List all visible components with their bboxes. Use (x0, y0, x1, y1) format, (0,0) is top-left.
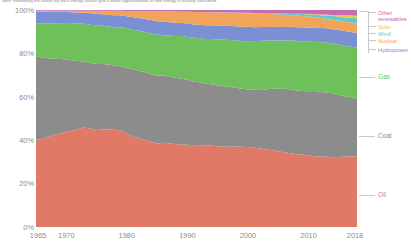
legend-leader (368, 12, 376, 13)
legend-leader (359, 77, 375, 78)
legend-label-wind[interactable]: Wind (378, 31, 411, 37)
x-axis: 1965197019801990200020102018 (0, 231, 411, 242)
y-tick-label: 20% (2, 179, 34, 188)
legend-label-nuclear[interactable]: Nuclear (378, 38, 411, 44)
legend-label-solar[interactable]: Solar (378, 24, 411, 30)
x-tick-label: 1970 (58, 231, 74, 240)
legend-label-other-renewables[interactable]: Other renewables (378, 10, 411, 22)
legend-label-coal[interactable]: Coal (378, 133, 411, 139)
legend-leader (368, 49, 376, 50)
stacked-area-svg (36, 10, 357, 227)
chart-legend: Other renewablesSolarWindNuclearHydropow… (357, 0, 411, 242)
y-tick-label: 80% (2, 49, 34, 58)
plot-area (36, 10, 357, 227)
x-tick-label: 1965 (30, 231, 46, 240)
legend-label-hydropower[interactable]: Hydropower (378, 47, 411, 53)
y-axis: 0%20%40%60%80%100% (0, 0, 34, 242)
x-tick-label: 1980 (119, 231, 135, 240)
legend-leader (359, 11, 368, 12)
legend-leader (359, 195, 375, 196)
legend-bracket-spine (368, 11, 369, 53)
legend-leader (359, 136, 375, 137)
legend-label-gas[interactable]: Gas (378, 74, 411, 80)
legend-leader (368, 40, 376, 41)
legend-label-oil[interactable]: Oil (378, 192, 411, 198)
legend-leader (368, 26, 376, 27)
y-tick-label: 40% (2, 136, 34, 145)
chart-subtitle: Note: Examining the shares by each energ… (2, 0, 342, 3)
legend-leader (368, 33, 376, 34)
y-tick-label: 60% (2, 93, 34, 102)
x-tick-label: 2000 (240, 231, 256, 240)
x-tick-label: 2010 (300, 231, 316, 240)
y-tick-label: 100% (2, 6, 34, 15)
x-tick-label: 1990 (179, 231, 195, 240)
chart-root: Note: Examining the shares by each energ… (0, 0, 411, 242)
